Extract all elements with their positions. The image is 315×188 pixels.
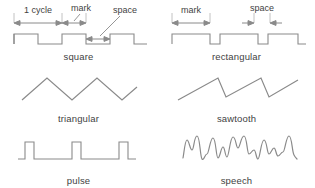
rect-space-arrow-head-b xyxy=(270,21,276,26)
speech-waveform-path xyxy=(183,136,297,159)
panel-label-triangular: triangular xyxy=(0,113,157,124)
panel-speech: speech xyxy=(158,126,315,188)
annotation-mark-label: mark xyxy=(71,3,91,13)
rect-mark-arrow-head-right xyxy=(204,21,210,26)
annotation-cycle-label: 1 cycle xyxy=(24,5,52,15)
panel-label-square: square xyxy=(0,51,157,62)
panel-label-sawtooth: sawtooth xyxy=(158,113,315,124)
space-arrow-head-left xyxy=(86,37,92,42)
triangular-waveform-path xyxy=(22,78,137,100)
mark-leader-line xyxy=(74,14,80,21)
panel-square: 1 cycle mark space square xyxy=(0,0,157,62)
space-leader-line xyxy=(100,16,120,36)
space-arrow-head-right xyxy=(104,37,110,42)
rect-mark-arrow-head-left xyxy=(172,21,178,26)
panel-triangular: triangular xyxy=(0,63,157,125)
rect-space-arrow-head-a xyxy=(248,21,254,26)
annotation-space-label: space xyxy=(250,3,274,13)
mark-arrow-head-right xyxy=(80,21,86,26)
rectangular-waveform-path xyxy=(172,34,306,44)
panel-label-pulse: pulse xyxy=(0,175,157,186)
panel-label-rectangular: rectangular xyxy=(158,51,315,62)
panel-sawtooth: sawtooth xyxy=(158,63,315,125)
annotation-mark-label: mark xyxy=(181,5,201,15)
panel-label-speech: speech xyxy=(158,175,315,186)
cycle-arrow-head-left xyxy=(14,21,20,26)
pulse-waveform-path xyxy=(18,142,136,159)
mark-arrow-head-left xyxy=(62,21,68,26)
square-waveform-path xyxy=(14,34,147,44)
panel-rectangular: mark space rectangular xyxy=(158,0,315,62)
waveform-figure: 1 cycle mark space square xyxy=(0,0,315,188)
sawtooth-waveform-path xyxy=(178,78,298,100)
annotation-space-label: space xyxy=(113,5,137,15)
panel-pulse: pulse xyxy=(0,126,157,188)
